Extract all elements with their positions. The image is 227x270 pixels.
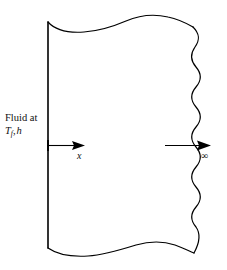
fluid-properties-text: Tf,h [5,125,37,138]
right-wavy-edge [191,27,200,253]
x-axis-label: x [77,150,81,161]
fluid-condition-label: Fluid at Tf,h [5,112,37,138]
top-torn-edge [48,15,193,32]
figure-container: Fluid at Tf,h x ∞ [0,0,227,270]
heat-transfer-coefficient-symbol: h [17,125,22,136]
fluid-separator: , [13,125,16,136]
far-field-arrow-head [197,141,211,151]
infinity-label: ∞ [201,150,208,161]
fluid-at-text: Fluid at [5,112,37,124]
bottom-torn-edge [48,242,194,256]
